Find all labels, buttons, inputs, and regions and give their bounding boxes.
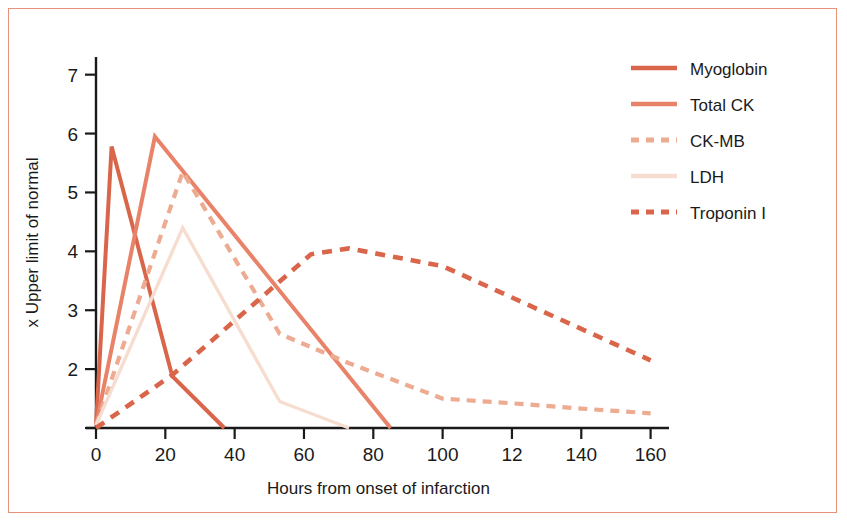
x-tick-label: 140 <box>565 444 597 465</box>
x-tick-label: 0 <box>91 444 102 465</box>
legend-label-total-ck: Total CK <box>690 96 755 115</box>
x-axis-tick-labels: 02040608010012140160 <box>91 444 667 465</box>
y-tick-label: 5 <box>67 182 78 203</box>
x-tick-label: 80 <box>363 444 384 465</box>
x-tick-label: 20 <box>155 444 176 465</box>
y-tick-label: 2 <box>67 359 78 380</box>
x-tick-label: 40 <box>224 444 245 465</box>
legend-label-myoglobin: Myoglobin <box>690 60 768 79</box>
y-tick-label: 7 <box>67 65 78 86</box>
y-axis-ticks <box>85 75 96 428</box>
chart-legend: MyoglobinTotal CKCK-MBLDHTroponin I <box>631 60 768 223</box>
series-line-total-ck <box>96 137 391 429</box>
y-axis-tick-labels: 234567 <box>67 65 78 380</box>
x-tick-label: 160 <box>635 444 667 465</box>
figure-container: 234567 02040608010012140160 Hours from o… <box>0 0 847 523</box>
line-chart: 234567 02040608010012140160 Hours from o… <box>0 0 847 523</box>
x-tick-label: 60 <box>293 444 314 465</box>
x-axis-ticks <box>96 428 651 439</box>
series-group <box>96 137 651 429</box>
legend-label-ldh: LDH <box>690 168 724 187</box>
y-tick-label: 3 <box>67 300 78 321</box>
series-line-ck-mb <box>96 172 651 425</box>
y-axis-title: x Upper limit of normal <box>23 157 42 327</box>
series-line-troponin-i <box>96 248 651 428</box>
legend-label-ck-mb: CK-MB <box>690 132 745 151</box>
x-tick-label: 12 <box>501 444 522 465</box>
x-axis-title: Hours from onset of infarction <box>267 479 490 498</box>
legend-label-troponin-i: Troponin I <box>690 204 766 223</box>
axes: 234567 02040608010012140160 <box>67 57 669 465</box>
x-tick-label: 100 <box>427 444 459 465</box>
y-tick-label: 4 <box>67 241 78 262</box>
y-tick-label: 6 <box>67 124 78 145</box>
